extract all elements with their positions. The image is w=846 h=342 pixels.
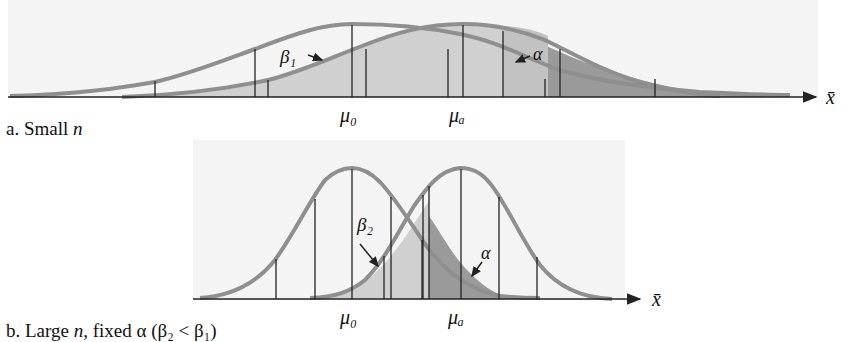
mua-label-b: μₐ bbox=[447, 306, 464, 329]
beta-label-b: β₂ bbox=[356, 214, 373, 235]
caption-b-var: n bbox=[74, 320, 84, 341]
axis-label-a: x̄ bbox=[825, 86, 835, 108]
beta-region-a bbox=[122, 24, 503, 97]
panel-b-caption: b. Large n, fixed α (β₂ < β₁) bbox=[6, 320, 217, 342]
beta-pointer-arrow-a bbox=[308, 55, 322, 60]
panel-a bbox=[8, 24, 816, 97]
beta-pointer-arrow-b bbox=[360, 244, 378, 266]
caption-a-var: n bbox=[73, 118, 83, 139]
mua-label-a: μₐ bbox=[448, 104, 465, 127]
mu0-label-a: μ₀ bbox=[339, 104, 357, 127]
mu0-label-b: μ₀ bbox=[339, 306, 357, 329]
alpha-label-b: α bbox=[481, 243, 491, 263]
caption-b-prefix: b. Large bbox=[6, 320, 74, 341]
caption-b-rest: , fixed α (β₂ < β₁) bbox=[83, 320, 216, 341]
panel-b bbox=[193, 168, 640, 299]
caption-a-prefix: a. Small bbox=[6, 118, 73, 139]
alpha-pointer-arrow-b bbox=[472, 262, 482, 276]
panel-a-caption: a. Small n bbox=[6, 118, 83, 140]
beta-label-a: β₁ bbox=[279, 46, 296, 67]
axis-label-b: x̄ bbox=[651, 288, 661, 310]
alpha-label-a: α bbox=[533, 44, 543, 64]
